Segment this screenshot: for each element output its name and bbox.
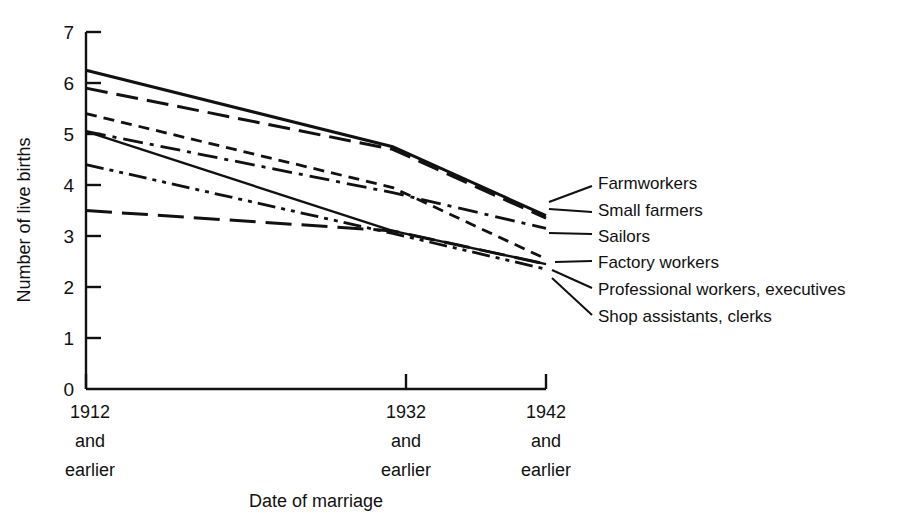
legend-leader-factory-workers	[555, 261, 592, 262]
x-axis-title: Date of marriage	[249, 491, 383, 511]
y-tick-label-5: 5	[63, 124, 74, 145]
x-tick-label-1912-year: 1912	[70, 402, 110, 422]
line-chart: 7 6 5 4 3 2 1 0 Number of live births 19…	[0, 0, 908, 520]
y-axis-title: Number of live births	[14, 137, 34, 302]
y-tick-label-3: 3	[63, 226, 74, 247]
chart-figure: 7 6 5 4 3 2 1 0 Number of live births 19…	[0, 0, 908, 520]
y-tick-label-0: 0	[63, 379, 74, 400]
y-tick-label-1: 1	[63, 328, 74, 349]
x-tick-label-1942-year: 1942	[526, 402, 566, 422]
x-tick-label-1932-earlier: earlier	[381, 460, 431, 480]
legend-label-farmworkers: Farmworkers	[598, 174, 697, 193]
legend-label-factory-workers: Factory workers	[598, 253, 719, 272]
y-tick-label-4: 4	[63, 175, 74, 196]
y-tick-label-7: 7	[63, 22, 74, 43]
legend-label-sailors: Sailors	[598, 227, 650, 246]
x-tick-label-1932-year: 1932	[386, 402, 426, 422]
x-tick-label-1912-and: and	[75, 431, 105, 451]
legend-label-shop-assistants: Shop assistants, clerks	[598, 307, 772, 326]
legend-label-small-farmers: Small farmers	[598, 201, 703, 220]
y-tick-label-6: 6	[63, 73, 74, 94]
x-tick-label-1942-and: and	[531, 431, 561, 451]
x-tick-label-1932-and: and	[391, 431, 421, 451]
x-tick-label-1942-earlier: earlier	[521, 460, 571, 480]
x-tick-label-1912-earlier: earlier	[65, 460, 115, 480]
y-tick-label-2: 2	[63, 277, 74, 298]
legend-label-professional-workers: Professional workers, executives	[598, 280, 846, 299]
legend-leader-sailors	[549, 233, 592, 234]
chart-background	[0, 0, 908, 520]
